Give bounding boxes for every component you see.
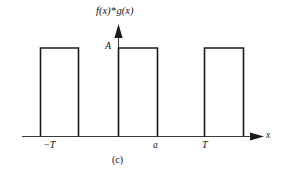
y-axis-arrowhead	[114, 24, 122, 38]
figure-caption: (c)	[112, 155, 123, 165]
convolution-pulse-train-figure: f(x)*g(x) A −T a T x (c)	[0, 0, 281, 180]
x-axis-label: x	[266, 131, 270, 141]
plot-canvas	[0, 0, 281, 180]
xtick-label-a: a	[153, 141, 158, 151]
xtick-label-minus-T: −T	[44, 140, 55, 150]
xtick-label-T: T	[202, 140, 208, 150]
pulse-left	[41, 48, 79, 137]
y-axis-label-head: f(x)	[96, 5, 111, 16]
y-axis-label: f(x)*g(x)	[96, 6, 134, 17]
amplitude-label: A	[105, 41, 111, 51]
xtick-label-T-left: T	[50, 139, 56, 150]
pulse-right	[205, 48, 244, 137]
pulse-center	[119, 48, 158, 137]
y-axis-label-tail: g(x)	[117, 5, 134, 16]
x-axis-arrowhead	[250, 133, 264, 141]
